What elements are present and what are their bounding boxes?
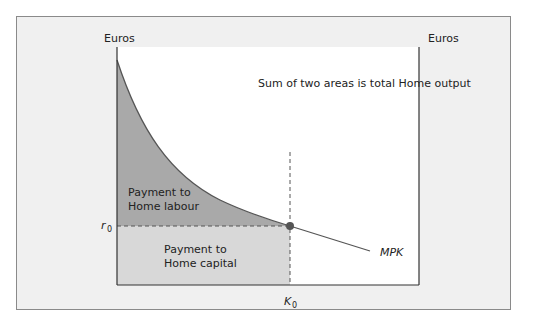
labour-label-line2: Home labour [128, 200, 199, 213]
euros-right-label: Euros [428, 32, 459, 45]
labour-label-line1: Payment to [128, 186, 191, 199]
r0-tick-label: r 0 [101, 219, 112, 234]
mpk-diagram: Euros Euros Sum of two areas is total Ho… [0, 0, 554, 329]
capital-label-line1: Payment to [164, 243, 227, 256]
equilibrium-point [286, 222, 294, 230]
k0-tick-label: K 0 [284, 295, 297, 310]
euros-left-label: Euros [104, 32, 135, 45]
mpk-label: MPK [380, 246, 404, 259]
svg-text:0: 0 [292, 301, 297, 310]
diagram-title: Sum of two areas is total Home output [258, 77, 471, 90]
capital-label-line2: Home capital [164, 257, 237, 270]
svg-text:0: 0 [107, 225, 112, 234]
svg-text:K: K [284, 295, 292, 308]
